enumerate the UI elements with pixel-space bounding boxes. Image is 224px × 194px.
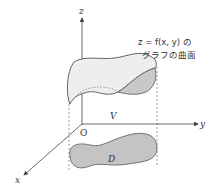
volume-label: V: [110, 111, 118, 121]
y-axis-label: y: [199, 119, 206, 129]
x-axis-label: x: [15, 175, 20, 185]
diagram-canvas: z y x O V D z = f(x, y) の グラフの曲面: [0, 0, 224, 194]
z-axis-label: z: [78, 6, 84, 16]
surface-caption-line1: z = f(x, y) の: [138, 37, 192, 47]
surface-caption-line2: グラフの曲面: [142, 50, 196, 60]
origin-label: O: [80, 128, 87, 138]
region-label: D: [107, 154, 115, 164]
